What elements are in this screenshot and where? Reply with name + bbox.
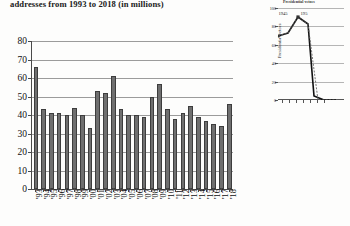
veto-y-label: 80 [272, 24, 276, 29]
veto-chart-header: Presidential vetoes [248, 0, 350, 4]
x-axis-cell: '14 [194, 192, 202, 226]
bar [165, 109, 170, 189]
bar [211, 124, 216, 189]
y-axis-label: 80 [18, 36, 28, 46]
veto-y-label: 20 [272, 79, 276, 84]
bar-cell [225, 41, 233, 189]
y-axis-label: 70 [18, 55, 28, 65]
chart-title: addresses from 1993 to 2018 (in millions… [10, 0, 238, 9]
veto-x-tick [324, 100, 325, 103]
bar-cell [194, 41, 202, 189]
y-axis-label: 0 [22, 184, 27, 194]
y-axis-label: 10 [18, 166, 28, 176]
bar-cell [78, 41, 86, 189]
bar-cell [163, 41, 171, 189]
x-axis-cell: '02 [101, 192, 109, 226]
bar [119, 109, 124, 189]
bar [95, 91, 100, 189]
plot-wrapper: 01020304050607080 '93'94'95'96'97'98'99'… [0, 18, 238, 226]
bar [150, 97, 155, 190]
bar-cell [218, 41, 226, 189]
bar [103, 93, 108, 189]
bar [142, 117, 147, 189]
x-axis-cell: '16 [210, 192, 218, 226]
bar-cell [63, 41, 71, 189]
bar-cell [187, 41, 195, 189]
bar [88, 128, 93, 189]
bar-cell [140, 41, 148, 189]
bar-cell [179, 41, 187, 189]
bar-cell [117, 41, 125, 189]
bar [80, 115, 85, 189]
veto-x-tick [289, 100, 290, 103]
x-axis-cell: '96 [54, 192, 62, 226]
veto-x-tick [296, 100, 297, 103]
x-axis-cell: '10 [163, 192, 171, 226]
bar-cell [210, 41, 218, 189]
bar [34, 67, 39, 189]
bar [49, 113, 54, 189]
bar-cell [55, 41, 63, 189]
x-axis-cell: '93 [31, 192, 39, 226]
bar-cell [32, 41, 40, 189]
veto-y-label: 40 [272, 61, 276, 66]
bar [204, 121, 209, 189]
veto-chart-figure: Presidential vetoes 020406080100 Preside… [238, 0, 350, 226]
y-axis-label: 50 [18, 92, 28, 102]
x-axis-cell: '94 [39, 192, 47, 226]
veto-x-tick [310, 100, 311, 103]
x-axis-cell: '04 [116, 192, 124, 226]
x-axis-cell: '17 [217, 192, 225, 226]
bar [196, 117, 201, 189]
bar [134, 115, 139, 189]
x-axis-cell: '11 [171, 192, 179, 226]
x-axis-cell: '01 [93, 192, 101, 226]
x-axis-cell: '99 [78, 192, 86, 226]
bar-cell [86, 41, 94, 189]
x-axis-cell: '06 [132, 192, 140, 226]
veto-x-tick [303, 100, 304, 103]
bar-cell [47, 41, 55, 189]
veto-x-tick [317, 100, 318, 103]
bar [57, 113, 62, 189]
x-axis-cell: '00 [85, 192, 93, 226]
bar-chart-figure: addresses from 1993 to 2018 (in millions… [0, 0, 238, 226]
bar-cell [71, 41, 79, 189]
x-axis-cell: '13 [186, 192, 194, 226]
bar [181, 113, 186, 189]
bar-cell [125, 41, 133, 189]
bar [157, 84, 162, 189]
bar [111, 76, 116, 189]
bar-cell [202, 41, 210, 189]
x-axis-cell: '98 [70, 192, 78, 226]
bar-cell [94, 41, 102, 189]
bar [72, 108, 77, 189]
bar [227, 104, 232, 189]
bar [126, 115, 131, 189]
x-axis-cell: '03 [109, 192, 117, 226]
x-axis-cell: '97 [62, 192, 70, 226]
bar-cell [133, 41, 141, 189]
x-axis-cell: '12 [179, 192, 187, 226]
x-axis-labels: '93'94'95'96'97'98'99'00'01'02'03'04'05'… [31, 192, 233, 226]
veto-y-label: 0 [274, 98, 276, 103]
bar-cell [102, 41, 110, 189]
veto-plot-area: 020406080100 Presidential vetoes 1945195 [278, 8, 344, 100]
veto-x-tick [282, 100, 283, 103]
plot-area: 01020304050607080 [31, 41, 233, 190]
page-root: addresses from 1993 to 2018 (in millions… [0, 0, 350, 226]
bar-cell [156, 41, 164, 189]
veto-y-label: 60 [272, 42, 276, 47]
y-axis-label: 40 [18, 110, 28, 120]
bars-group [32, 41, 233, 189]
x-axis-cell: '09 [155, 192, 163, 226]
y-axis-label: 60 [18, 73, 28, 83]
bar [173, 119, 178, 189]
bar [65, 115, 70, 189]
x-axis-cell: '08 [147, 192, 155, 226]
bar-cell [148, 41, 156, 189]
x-axis-label: '18 [229, 189, 238, 199]
y-axis-label: 30 [18, 129, 28, 139]
bar-cell [171, 41, 179, 189]
x-axis-cell: '95 [47, 192, 55, 226]
